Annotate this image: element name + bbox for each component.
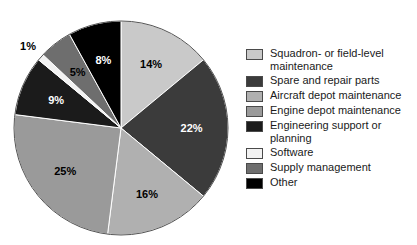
legend-item[interactable]: Spare and repair parts: [246, 74, 417, 87]
pie-chart-figure: 14%22%16%25%9%1%5%8% Squadron- or field-…: [0, 0, 417, 245]
legend-swatch-icon: [246, 106, 263, 117]
legend-item[interactable]: Engineering support or planning: [246, 119, 417, 144]
pie-slice-value-label: 14%: [140, 58, 162, 70]
pie-slice-value-label: 16%: [136, 188, 158, 200]
legend-item[interactable]: Engine depot maintenance: [246, 104, 417, 117]
legend-swatch-icon: [246, 49, 263, 60]
legend-item-label: Engineering support or planning: [270, 119, 381, 144]
legend-swatch-icon: [246, 91, 263, 102]
pie-slice-value-label: 1%: [20, 40, 36, 52]
legend-swatch-icon: [246, 178, 263, 189]
legend-item-label: Other: [270, 176, 298, 189]
legend-item-label: Aircraft depot maintenance: [270, 89, 401, 102]
legend-item[interactable]: Software: [246, 146, 417, 159]
pie-slice-value-label: 5%: [70, 66, 86, 78]
legend-item-label: Engine depot maintenance: [270, 104, 401, 117]
pie-slice-value-label: 9%: [48, 94, 64, 106]
legend-swatch-icon: [246, 121, 263, 132]
legend-item[interactable]: Supply management: [246, 161, 417, 174]
pie-slice-value-label: 8%: [95, 54, 111, 66]
legend-item-label: Software: [270, 146, 313, 159]
legend-item[interactable]: Squadron- or field-level maintenance: [246, 47, 417, 72]
legend-swatch-icon: [246, 163, 263, 174]
pie-plot-area: 14%22%16%25%9%1%5%8%: [0, 0, 243, 245]
chart-legend: Squadron- or field-level maintenanceSpar…: [246, 47, 417, 191]
legend-item-label: Supply management: [270, 161, 371, 174]
legend-item-label: Squadron- or field-level maintenance: [270, 47, 384, 72]
legend-item-label: Spare and repair parts: [270, 74, 379, 87]
pie-slice-value-label: 25%: [54, 165, 76, 177]
legend-swatch-icon: [246, 76, 263, 87]
pie-slice-value-label: 22%: [181, 122, 203, 134]
legend-item[interactable]: Other: [246, 176, 417, 189]
legend-swatch-icon: [246, 148, 263, 159]
legend-item[interactable]: Aircraft depot maintenance: [246, 89, 417, 102]
pie-svg: 14%22%16%25%9%1%5%8%: [0, 0, 243, 245]
